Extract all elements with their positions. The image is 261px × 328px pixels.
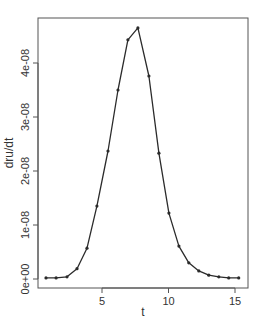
- y-tick-label: 1e-08: [19, 211, 31, 239]
- data-point: [167, 212, 170, 215]
- x-tick-label: 15: [229, 295, 241, 307]
- data-point: [217, 275, 220, 278]
- data-point: [187, 261, 190, 264]
- x-axis: 51015: [99, 288, 241, 307]
- x-tick-label: 10: [162, 295, 174, 307]
- data-point: [177, 245, 180, 248]
- data-point: [75, 267, 78, 270]
- y-tick-label: 0e+00: [19, 264, 31, 295]
- y-axis-title: dru/dt: [2, 137, 16, 168]
- data-point: [147, 74, 150, 77]
- data-point: [126, 38, 129, 41]
- plot-frame: [38, 18, 248, 288]
- data-point-markers: [44, 26, 240, 279]
- data-point: [106, 149, 109, 152]
- data-point: [157, 152, 160, 155]
- data-point: [65, 275, 68, 278]
- x-axis-title: t: [141, 305, 145, 319]
- data-point: [227, 276, 230, 279]
- data-point: [237, 276, 240, 279]
- y-tick-label: 2e-08: [19, 157, 31, 185]
- series-line: [46, 28, 239, 278]
- data-point: [116, 88, 119, 91]
- y-tick-label: 3e-08: [19, 103, 31, 131]
- data-point: [55, 276, 58, 279]
- x-tick-label: 5: [99, 295, 105, 307]
- data-point: [197, 269, 200, 272]
- data-point: [136, 26, 139, 29]
- data-point: [95, 205, 98, 208]
- data-point: [85, 247, 88, 250]
- y-tick-label: 4e-08: [19, 49, 31, 77]
- line-chart: 51015 0e+001e-082e-083e-084e-08 t dru/dt: [0, 0, 261, 328]
- data-point: [207, 274, 210, 277]
- data-point: [44, 276, 47, 279]
- y-axis: 0e+001e-082e-083e-084e-08: [19, 49, 38, 295]
